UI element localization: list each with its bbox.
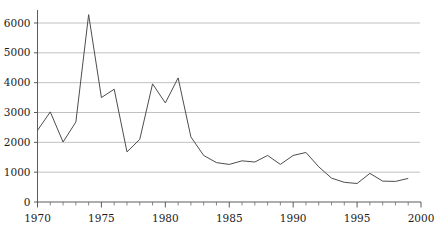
x-axis-label-2000: 2000 bbox=[408, 212, 435, 224]
y-axis-label-2000: 2000 bbox=[4, 136, 31, 148]
chart-canvas: 0100020003000400050006000197019751980198… bbox=[0, 0, 440, 233]
line-chart: 0100020003000400050006000197019751980198… bbox=[0, 0, 440, 233]
y-axis-label-0: 0 bbox=[24, 196, 31, 208]
y-axis-label-5000: 5000 bbox=[4, 46, 31, 58]
y-axis-label-1000: 1000 bbox=[4, 166, 31, 178]
y-axis-label-6000: 6000 bbox=[4, 17, 31, 29]
data-series-series-1 bbox=[38, 15, 409, 184]
x-axis-label-1980: 1980 bbox=[152, 212, 179, 224]
y-axis-label-3000: 3000 bbox=[4, 106, 31, 118]
x-axis-label-1975: 1975 bbox=[88, 212, 115, 224]
x-axis-label-1970: 1970 bbox=[24, 212, 51, 224]
x-axis-label-1995: 1995 bbox=[344, 212, 371, 224]
y-axis-label-4000: 4000 bbox=[4, 76, 31, 88]
x-axis-label-1990: 1990 bbox=[280, 212, 307, 224]
x-axis-label-1985: 1985 bbox=[216, 212, 243, 224]
